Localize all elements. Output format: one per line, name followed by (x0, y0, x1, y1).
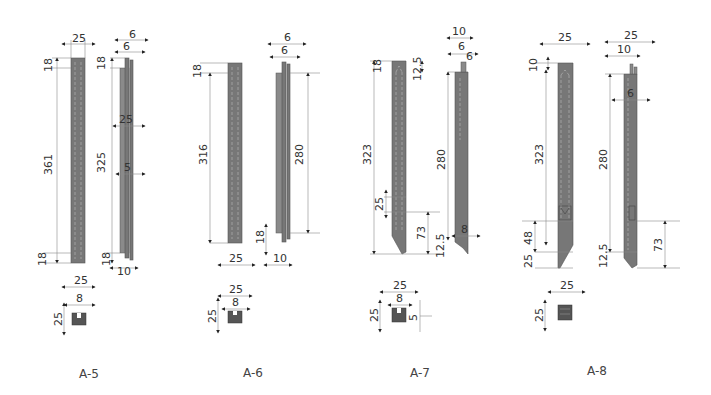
technical-drawing: 25 18 361 18 18 325 6 6 25 5 18 (0, 0, 711, 395)
a5-bottom-label: 18 (36, 252, 49, 266)
a8-width-label: 25 (558, 31, 572, 44)
a5-side-top-w2: 6 (123, 40, 130, 53)
a8-section-view: 25 25 (533, 279, 585, 331)
a5-front-view: 25 18 361 18 (36, 32, 95, 266)
a8-side-top-w2: 10 (617, 43, 631, 56)
a8-top-label: 10 (527, 58, 540, 72)
a6-front-view: 18 316 25 (191, 63, 255, 265)
a7-section-height: 25 (368, 308, 381, 322)
a6-side-bottom-w: 10 (273, 252, 287, 265)
a5-section-view: 25 8 25 (52, 274, 95, 335)
a6-width-label: 25 (229, 252, 243, 265)
a5-section-slot: 8 (76, 292, 83, 305)
a8-section-height: 25 (533, 308, 546, 322)
a6-side-top-w2: 6 (281, 44, 288, 57)
a8-tip-label: 25 (522, 254, 535, 268)
a8-length-label: 323 (533, 144, 546, 165)
a8-notch-label: 48 (522, 231, 535, 245)
a5-side-bottom-w: 10 (117, 265, 131, 278)
a5-length-label: 361 (42, 154, 55, 175)
a6-side-bottom-label: 18 (254, 230, 267, 244)
a8-section-width: 25 (560, 279, 574, 292)
a7-side-length-label: 280 (435, 149, 448, 170)
a7-section-depth: 5 (407, 314, 420, 321)
caption-a8: A-8 (587, 364, 607, 378)
a6-side-top-w1: 6 (284, 31, 291, 44)
part-a8: 25 10 323 48 25 25 10 6 (522, 29, 680, 378)
a6-length-label: 316 (197, 144, 210, 165)
a6-top-label: 18 (191, 64, 204, 78)
a6-section-height: 25 (206, 309, 219, 323)
part-a7: 18 323 12.5 25 73 10 6 6 280 8 12.5 (361, 25, 480, 380)
a5-side-mid-w2: 5 (124, 161, 131, 174)
a7-section-width: 25 (393, 279, 407, 292)
a5-side-mid-w: 25 (119, 113, 133, 126)
caption-a6: A-6 (243, 366, 263, 380)
caption-a7: A-7 (410, 366, 430, 380)
a6-side-length-label: 280 (293, 144, 306, 165)
a6-section-view: 25 8 25 (206, 283, 252, 333)
a7-side-top-w1: 10 (452, 25, 466, 38)
a5-section-height: 25 (52, 312, 65, 326)
a8-side-bottom-label: 12.5 (597, 244, 610, 269)
a7-side-bottom-w: 8 (461, 223, 468, 236)
a5-side-top-w1: 6 (129, 28, 136, 41)
a5-width-label: 25 (72, 32, 86, 45)
a7-front-view: 18 323 12.5 25 73 (361, 57, 440, 255)
a7-side-view: 10 6 6 280 8 12.5 (434, 25, 480, 258)
a8-side-top-w1: 25 (624, 29, 638, 42)
a8-front-view: 25 10 323 48 25 (522, 31, 590, 268)
a5-side-view: 18 325 6 6 25 5 18 10 (95, 28, 148, 278)
a8-side-view: 25 10 6 280 12.5 73 (597, 29, 680, 268)
a8-side-mid-w: 6 (627, 87, 634, 100)
part-a5: 25 18 361 18 18 325 6 6 25 5 18 (36, 28, 148, 381)
a7-section-slot: 8 (396, 292, 403, 305)
a5-section-width: 25 (74, 274, 88, 287)
caption-a5: A-5 (79, 367, 99, 381)
a7-side-bottom-label: 12.5 (434, 234, 447, 259)
a6-section-width: 25 (229, 283, 243, 296)
a6-side-view: 6 6 280 18 10 (254, 31, 320, 265)
a5-side-bottom-label: 18 (100, 252, 113, 266)
a8-side-tip-label: 73 (652, 238, 665, 252)
a8-side-length-label: 280 (597, 149, 610, 170)
a7-notch-label: 25 (373, 197, 386, 211)
a5-top-label: 18 (42, 58, 55, 72)
a5-side-top-label: 18 (95, 56, 108, 70)
a7-top2-label: 12.5 (411, 57, 424, 82)
a7-tip-label: 73 (415, 226, 428, 240)
a7-side-top-w3: 6 (466, 50, 473, 63)
a7-top-label: 18 (371, 59, 384, 73)
a6-section-slot: 8 (232, 296, 239, 309)
part-a6: 18 316 25 6 6 280 18 10 25 (191, 31, 320, 380)
a7-section-view: 25 8 25 5 (368, 279, 432, 332)
a7-length-label: 323 (361, 144, 374, 165)
a5-side-length-label: 325 (95, 152, 108, 173)
a7-side-top-w2: 6 (458, 40, 465, 53)
